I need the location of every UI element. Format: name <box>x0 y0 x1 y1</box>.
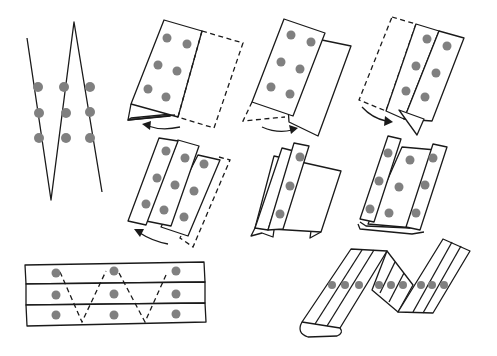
step-2-panel <box>243 19 351 136</box>
step-4-panel <box>128 138 230 247</box>
step-6-panel <box>358 136 447 234</box>
step-3-panel <box>359 17 464 135</box>
zigzag-lines-panel <box>27 22 102 200</box>
curved-arrow-right-icon <box>262 125 298 134</box>
curved-arrow-left-icon <box>142 121 180 130</box>
curved-arrow-left-icon <box>134 229 168 244</box>
folding-diagram: Map folding steps (zigzag / accordion fo… <box>0 0 497 356</box>
step-5-panel <box>251 143 341 238</box>
accordion-panel <box>300 239 470 337</box>
step-1-panel <box>128 20 243 130</box>
strip-grid-panel <box>25 262 206 326</box>
